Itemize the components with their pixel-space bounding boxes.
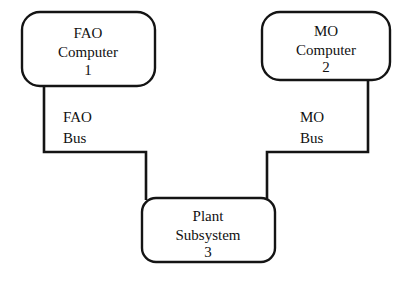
node-fao-computer-number: 1 [84,62,92,78]
label-mo-bus-line1: MO [300,109,324,125]
node-fao-computer-line2: Computer [58,44,118,60]
label-fao-bus-line1: FAO [63,109,92,125]
node-mo-computer-line1: MO [314,23,338,39]
node-plant-subsystem-line1: Plant [193,208,225,224]
label-mo-bus-line2: Bus [300,130,324,146]
block-diagram-canvas: FAO Computer 1 MO Computer 2 Plant Subsy… [0,0,416,281]
label-fao-bus-line2: Bus [63,130,87,146]
label-mo-bus: MO Bus [300,109,324,146]
diagram-svg: FAO Computer 1 MO Computer 2 Plant Subsy… [0,0,416,281]
label-fao-bus: FAO Bus [63,109,92,146]
node-plant-subsystem-line2: Subsystem [175,227,240,243]
node-mo-computer[interactable]: MO Computer 2 [262,12,390,80]
connector-fao-bus [44,86,146,200]
node-plant-subsystem[interactable]: Plant Subsystem 3 [142,198,275,262]
node-plant-subsystem-number: 3 [204,244,212,260]
node-fao-computer[interactable]: FAO Computer 1 [22,12,155,86]
node-fao-computer-line1: FAO [74,25,103,41]
node-mo-computer-number: 2 [322,59,330,75]
node-mo-computer-line2: Computer [296,42,356,58]
